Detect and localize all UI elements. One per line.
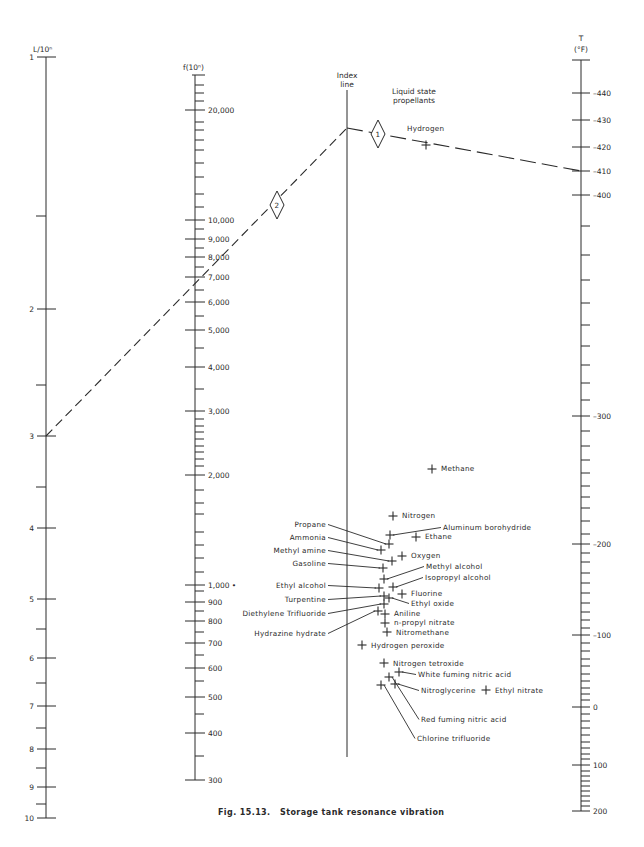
propellant-white-fuming-nitric-acid: White fuming nitric acid: [395, 668, 512, 680]
leader-line: [328, 525, 386, 545]
leader-line: [328, 611, 375, 634]
propellant-label: Aluminum borohydride: [443, 523, 532, 532]
leader-line: [328, 586, 376, 589]
propellant-label: Ethane: [425, 532, 452, 541]
axis-T-tick-label: 200: [593, 807, 608, 816]
propellant-label: Hydrazine hydrate: [254, 629, 326, 638]
propellant-gasoline: Gasoline: [293, 559, 388, 573]
diamond-marker-label: 2: [275, 201, 280, 210]
axis-T-tick-label: –100: [593, 631, 611, 640]
axis-T-tick-label: 0: [593, 703, 598, 712]
axis-f-tick-label: 5,000: [208, 326, 230, 335]
propellant-label: Methyl alcohol: [426, 562, 482, 571]
axis-title-T-2: (°F): [574, 45, 588, 54]
propellant-label: Diethylene Trifluoride: [242, 609, 326, 618]
axis-f-tick-label: 3,000: [208, 407, 230, 416]
axis-f-tick-label: 2,000: [208, 471, 230, 480]
propellant-label: Ethyl nitrate: [495, 686, 544, 695]
leader-line: [328, 551, 389, 562]
axis-L-tick-label: 5: [29, 595, 34, 604]
leader-line: [328, 538, 378, 551]
propellant-hydrogen: Hydrogen: [407, 124, 444, 150]
propellant-hydrogen-peroxide: Hydrogen peroxide: [358, 641, 445, 651]
propellant-label: Methane: [441, 464, 475, 473]
propellant-label: Methyl amine: [273, 546, 326, 555]
axis-title-f: f(10ⁿ): [183, 63, 204, 72]
propellant-label: Ammonia: [290, 533, 326, 542]
axis-f-tick-label: 9,000: [208, 235, 230, 244]
axes-group: 1234567891020,00010,0009,0008,0007,0006,…: [24, 53, 611, 823]
axis-T-tick-label: –200: [593, 540, 611, 549]
nomogram: 1234567891020,00010,0009,0008,0007,0006,…: [0, 0, 644, 847]
axis-title-L: L/10ⁿ: [33, 45, 52, 54]
propellant-label: Ethyl alcohol: [276, 581, 326, 590]
leader-line: [402, 672, 416, 675]
propellant-label: Chlorine trifluoride: [417, 734, 491, 743]
axis-f-tick-label: 1,000 •: [208, 581, 236, 590]
axis-f-tick-label: 6,000: [208, 298, 230, 307]
propellant-methane: Methane: [428, 464, 475, 474]
axis-f-tick-label: 600: [208, 664, 223, 673]
axis-L-tick-label: 6: [29, 654, 34, 663]
propellant-aluminum-borohydride: Aluminum borohydride: [386, 523, 532, 540]
leader-line: [392, 677, 419, 720]
propellant-nitrogen: Nitrogen: [389, 511, 436, 521]
axis-f-tick-label: 400: [208, 729, 223, 738]
leader-line: [392, 598, 409, 604]
axis-L-tick-label: 10: [24, 814, 34, 823]
axis-title-T-1: T: [578, 34, 584, 43]
propellant-label: Hydrogen: [407, 124, 444, 133]
propellant-ethane: Ethane: [412, 532, 453, 542]
axis-f-tick-label: 500: [208, 693, 223, 702]
axis-T-tick-label: –400: [593, 191, 611, 200]
propellant-label: Nitrogen: [402, 511, 435, 520]
header-note-2: propellants: [393, 96, 435, 105]
propellant-label: Hydrogen peroxide: [371, 641, 445, 650]
index-line-title-1: Index: [337, 71, 358, 80]
propellant-n-propyl-nitrate: n-propyl nitrate: [381, 618, 456, 628]
axis-L-tick-label: 8: [29, 745, 34, 754]
figure-caption: Fig. 15.13. Storage tank resonance vibra…: [218, 808, 444, 817]
axis-L-tick-label: 2: [29, 305, 34, 314]
propellant-label: Ethyl oxide: [411, 599, 454, 608]
axis-T-tick-label: –300: [593, 412, 611, 421]
axis-L-tick-label: 9: [29, 783, 34, 792]
propellant-ethyl-nitrate: Ethyl nitrate: [482, 686, 544, 696]
header-note-1: Liquid state: [392, 87, 436, 96]
axis-f-tick-label: 900: [208, 598, 223, 607]
diamond-marker-label: 1: [376, 130, 381, 139]
propellant-label: Red fuming nitric acid: [421, 715, 507, 724]
propellant-oxygen: Oxygen: [398, 551, 441, 561]
propellant-red-fuming-nitric-acid: Red fuming nitric acid: [385, 673, 507, 725]
marker-1: 1: [371, 120, 385, 148]
propellant-label: Nitrogen tetroxide: [393, 659, 464, 668]
propellant-ethyl-alcohol: Ethyl alcohol: [276, 581, 384, 593]
propellant-label: Nitromethane: [396, 628, 449, 637]
axis-T-tick-label: –420: [593, 143, 611, 152]
propellant-label: Gasoline: [293, 559, 327, 568]
leader-line: [384, 685, 415, 739]
axis-f-tick-label: 300: [208, 776, 223, 785]
leader-line: [398, 684, 419, 691]
propellant-label: Oxygen: [411, 551, 441, 560]
index-line-title-2: line: [340, 80, 354, 89]
axis-L-tick-label: 4: [29, 524, 34, 533]
propellant-label: Propane: [295, 520, 327, 529]
axis-L-tick-label: 3: [29, 432, 34, 441]
axis-T-tick-label: –440: [593, 89, 611, 98]
leader-line: [387, 567, 424, 580]
propellant-label: Fluorine: [411, 589, 443, 598]
axis-f-tick-label: 8,000: [208, 253, 230, 262]
leader-line: [396, 578, 423, 588]
propellant-label: Aniline: [394, 609, 421, 618]
axis-f-tick-label: 700: [208, 639, 223, 648]
axis-f-tick-label: 7,000: [208, 273, 230, 282]
propellant-turpentine: Turpentine: [284, 592, 389, 605]
leader-line: [328, 596, 381, 600]
propellant-label: Turpentine: [284, 595, 326, 604]
example-path: 21: [46, 120, 581, 436]
propellant-fluorine: Fluorine: [398, 589, 443, 599]
axis-f-tick-label: 20,000: [208, 106, 234, 115]
propellant-label: n-propyl nitrate: [394, 618, 455, 627]
axis-f-tick-label: 4,000: [208, 363, 230, 372]
